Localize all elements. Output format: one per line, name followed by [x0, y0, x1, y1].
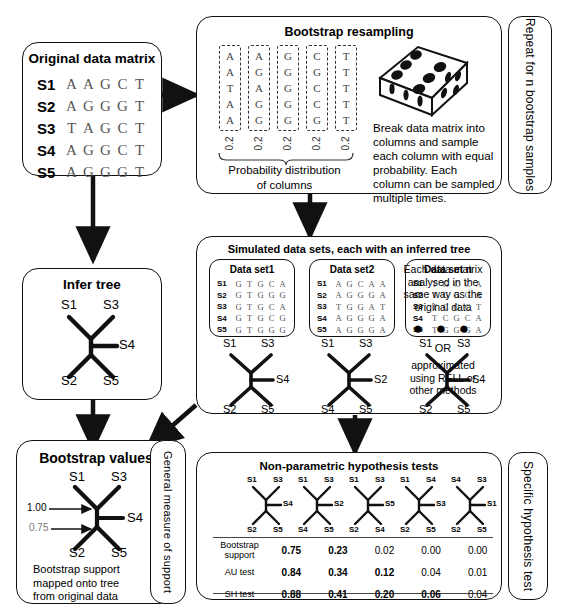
- tree-tip-label: S5: [477, 525, 487, 534]
- matrix-row: S2GTGGG: [217, 290, 288, 302]
- tree-tip-label: S5: [111, 545, 127, 560]
- support-value-upper: 1.00: [27, 501, 46, 516]
- tree-tip-label: S2: [334, 499, 344, 508]
- tree-tip-label: S1: [349, 475, 359, 484]
- tree-tip-label: S3: [261, 337, 274, 349]
- table-cell: 0.23: [315, 539, 362, 561]
- tree-tip-label: S5: [261, 403, 274, 415]
- bootstrap-values-caption: Bootstrap support mapped onto tree from …: [33, 563, 169, 604]
- matrix-row: S2AGGGT: [37, 95, 148, 117]
- table-cell: 0.04: [408, 561, 455, 583]
- probability-value: 0.2: [225, 137, 236, 151]
- table-top-rule: [213, 537, 493, 538]
- original-data-matrix-panel: Original data matrix S1AAGCT S2AGGGT S3T…: [22, 42, 162, 176]
- probability-value: 0.2: [341, 137, 352, 151]
- matrix-row: S2AGGGA: [317, 290, 388, 302]
- tree-tip-label: S2: [374, 373, 387, 385]
- dataset-matrix: S1AGCAA S2AGGGA S3TGGAT S4AGGGA S5AGGGA: [317, 278, 388, 336]
- dataset-box-2: Data set2 S1AGCAA S2AGGGA S3TGGAT S4AGGG…: [309, 259, 395, 337]
- tree-tip-label: S4: [276, 373, 289, 385]
- tree-tip-label: S3: [273, 475, 283, 484]
- sequence: AAGCT: [63, 76, 148, 93]
- sequence: TAGCT: [63, 120, 148, 137]
- infer-tree-title: Infer tree: [23, 277, 161, 292]
- matrix-row: S1AGCAA: [317, 278, 388, 290]
- tree-tip-label: S4: [321, 403, 334, 415]
- sequence: AGGGT: [63, 98, 148, 115]
- column-box: TTTTT: [335, 45, 357, 131]
- dataset-title: Data set1: [210, 264, 294, 275]
- tree-tip-label: S5: [103, 373, 119, 388]
- table-cell: 0.01: [454, 561, 501, 583]
- dataset-box-1: Data set1 S1GTGCA S2GTGGG S3GTGCA S4GTGC…: [209, 259, 295, 337]
- tree-tip-label: S2: [419, 403, 432, 415]
- tree-tip-label: S5: [457, 403, 470, 415]
- matrix-row: S3TAGCT: [37, 117, 148, 139]
- analysis-note: Each data matrix analysed in the same wa…: [393, 263, 493, 313]
- tree-tip-label: S3: [436, 499, 446, 508]
- probability-value: 0.2: [312, 137, 323, 151]
- tree-tip-label: S1: [223, 337, 236, 349]
- tree-tip-label: S3: [359, 337, 372, 349]
- side-tab-general-measure-label: General measure of support: [162, 451, 174, 593]
- matrix-row: S4GTGCG: [217, 313, 288, 325]
- tree-tip-label: S2: [400, 525, 410, 534]
- dataset-matrix: S1GTGCA S2GTGGG S3GTGCA S4GTGCG S5GTGGG: [217, 278, 288, 336]
- tree-tip-label: S5: [426, 525, 436, 534]
- row-label: SH test: [211, 583, 268, 605]
- die-six-icon: [372, 33, 480, 119]
- original-matrix-title: Original data matrix: [23, 51, 161, 66]
- column-box: GGGGG: [277, 45, 299, 131]
- table-cell: 0.02: [361, 539, 408, 561]
- results-table: Bootstrap support 0.75 0.23 0.02 0.00 0.…: [211, 539, 501, 605]
- table-cell: 0.84: [268, 561, 315, 583]
- tree-tip-label: S4: [298, 525, 308, 534]
- tree-tip-label: S5: [359, 403, 372, 415]
- side-tab-specific-hypothesis: Specific hypothesis test: [508, 452, 548, 600]
- table-cell: 0.75: [268, 539, 315, 561]
- table-cell: 0.41: [315, 583, 362, 605]
- matrix-row: S5AGGGA: [317, 324, 388, 336]
- tree-tip-label: S1: [69, 469, 85, 484]
- tree-tip-label: S1: [298, 475, 308, 484]
- original-matrix-rows: S1AAGCT S2AGGGT S3TAGCT S4AGGCT S5AGGGT: [37, 73, 148, 183]
- tree-tip-label: S3: [375, 475, 385, 484]
- hypothesis-tests-panel: Non-parametric hypothesis tests: [196, 452, 502, 600]
- tree-tip-label: S4: [127, 510, 143, 525]
- simulated-datasets-panel: Simulated data sets, each with an inferr…: [196, 236, 502, 414]
- table-row: Bootstrap support 0.75 0.23 0.02 0.00 0.…: [211, 539, 501, 561]
- alternative-note: approximated using RELL or other methods: [393, 359, 493, 397]
- tree-tip-label: S2: [247, 525, 257, 534]
- bootstrap-resampling-panel: Bootstrap resampling AATAA AGAGG GGGGG C…: [196, 16, 502, 194]
- table-cell: 0.00: [454, 539, 501, 561]
- column-box: AGAGG: [248, 45, 270, 131]
- matrix-row: S5GTGGG: [217, 324, 288, 336]
- tree-tip-label: S1: [321, 337, 334, 349]
- side-tab-repeat: Repeat for n bootstrap samples: [508, 16, 552, 194]
- tree-tip-label: S1: [487, 499, 497, 508]
- diagram-canvas: Original data matrix S1AAGCT S2AGGGT S3T…: [0, 0, 561, 615]
- sequence: AGGCT: [63, 142, 148, 159]
- matrix-row: S1AAGCT: [37, 73, 148, 95]
- tree-tip-label: S3: [477, 475, 487, 484]
- tree-tip-label: S4: [426, 475, 436, 484]
- resampling-description: Break data matrix into columns and sampl…: [373, 121, 497, 205]
- tree-tip-label: S5: [324, 525, 334, 534]
- side-tab-specific-hypothesis-label: Specific hypothesis test: [521, 461, 535, 591]
- tree-tip-label: S3: [111, 469, 127, 484]
- matrix-row: S5AGGGT: [37, 161, 148, 183]
- probability-labels: 0.2 0.2 0.2 0.2 0.2: [219, 133, 357, 151]
- tree-tip-label: S4: [119, 337, 135, 352]
- side-tab-repeat-label: Repeat for n bootstrap samples: [523, 18, 537, 191]
- tree-tip-label: S2: [349, 525, 359, 534]
- infer-tree-panel: Infer tree S1 S3 S4 S2 S5: [22, 268, 162, 400]
- probability-value: 0.2: [283, 137, 294, 151]
- row-label: Bootstrap support: [211, 539, 268, 561]
- table-cell: 0.06: [408, 583, 455, 605]
- tree-tip-label: S2: [61, 373, 77, 388]
- tree-tip-label: S5: [273, 525, 283, 534]
- table-cell: 0.34: [315, 561, 362, 583]
- tree-tip-label: S4: [451, 475, 461, 484]
- tree-tip-label: S2: [223, 403, 236, 415]
- matrix-row: S1GTGCA: [217, 278, 288, 290]
